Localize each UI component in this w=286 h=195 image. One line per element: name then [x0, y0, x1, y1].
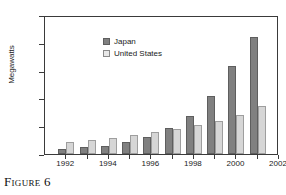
figure-container: Megawatts JapanUnited States 01002003004…	[0, 0, 286, 195]
bar-united-states-1997	[173, 129, 181, 154]
bar-japan-2001	[250, 37, 258, 154]
x-tick-mark	[129, 155, 130, 159]
x-tick-label: 2002	[258, 160, 286, 168]
bar-japan-1998	[186, 116, 194, 154]
x-tick-mark	[87, 155, 88, 159]
bar-united-states-1999	[215, 121, 223, 154]
y-tick-mark	[39, 72, 44, 73]
y-tick-mark	[39, 99, 44, 100]
bar-japan-1995	[122, 142, 130, 154]
bar-united-states-1992	[66, 142, 74, 154]
bar-united-states-1998	[194, 125, 202, 154]
legend-label: United States	[114, 50, 162, 58]
bar-japan-1997	[165, 128, 173, 154]
bar-united-states-1993	[88, 140, 96, 154]
bar-japan-1993	[80, 147, 88, 154]
x-tick-label: 1996	[130, 160, 170, 168]
y-tick-mark	[39, 16, 44, 17]
legend-swatch-icon	[103, 38, 110, 45]
x-tick-label: 1992	[45, 160, 85, 168]
chart-legend: JapanUnited States	[103, 37, 162, 61]
x-tick-mark	[214, 155, 215, 159]
legend-item-japan: Japan	[103, 37, 162, 46]
bar-chart: Megawatts JapanUnited States 01002003004…	[0, 0, 286, 170]
bar-japan-1996	[143, 137, 151, 154]
bar-united-states-1996	[151, 132, 159, 154]
y-tick-mark	[39, 44, 44, 45]
bar-japan-1999	[207, 96, 215, 154]
y-axis-title: Megawatts	[7, 30, 16, 100]
legend-label: Japan	[114, 38, 136, 46]
plot-area: JapanUnited States	[44, 16, 278, 155]
bar-united-states-1994	[109, 138, 117, 154]
bar-japan-1992	[58, 149, 66, 154]
bar-japan-2000	[228, 66, 236, 154]
x-tick-label: 1994	[88, 160, 128, 168]
bar-united-states-2001	[258, 106, 266, 154]
x-tick-label: 1998	[173, 160, 213, 168]
y-tick-mark	[39, 127, 44, 128]
bar-united-states-1995	[130, 135, 138, 154]
bar-japan-1994	[101, 146, 109, 154]
y-tick-mark	[39, 155, 44, 156]
legend-item-united-states: United States	[103, 49, 162, 58]
x-tick-label: 2000	[215, 160, 255, 168]
figure-caption: Figure 6	[4, 174, 51, 190]
bar-united-states-2000	[236, 115, 244, 154]
x-tick-mark	[257, 155, 258, 159]
x-tick-mark	[172, 155, 173, 159]
legend-swatch-icon	[103, 50, 110, 57]
